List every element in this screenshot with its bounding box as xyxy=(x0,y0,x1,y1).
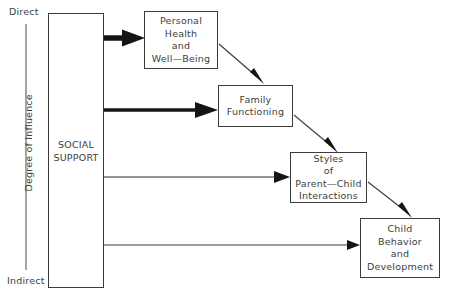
node-parent-child-styles-line-1: Styles xyxy=(313,153,343,166)
arrow-social-support-to-parent-child-styles xyxy=(104,171,290,183)
node-social-support-line-1: SOCIAL xyxy=(58,138,94,151)
arrow-social-support-to-child-behavior xyxy=(104,240,360,250)
node-child-behavior-line-2: Behavior xyxy=(378,236,422,249)
node-parent-child-styles-line-3: Parent—Child xyxy=(295,178,361,191)
node-family-functioning[interactable]: Family Functioning xyxy=(218,85,293,127)
node-child-behavior-line-1: Child xyxy=(388,223,413,236)
node-social-support-line-2: SUPPORT xyxy=(53,151,98,164)
node-parent-child-styles-line-2: of xyxy=(324,165,334,178)
node-personal-health-line-1: Personal xyxy=(160,15,202,28)
node-personal-health-and-well-being[interactable]: Personal Health and Well—Being xyxy=(144,11,218,69)
node-child-behavior-line-4: Development xyxy=(367,261,433,274)
axis-label-degree-of-influence: Degree of Influence xyxy=(23,102,34,192)
arrow-parent-child-styles-to-child-behavior xyxy=(368,182,412,218)
node-parent-child-styles-line-4: Interactions xyxy=(299,190,358,203)
node-family-functioning-line-1: Family xyxy=(240,94,272,107)
node-child-behavior-and-development[interactable]: Child Behavior and Development xyxy=(360,218,440,278)
arrow-social-support-to-family-functioning xyxy=(104,102,218,118)
arrow-social-support-to-personal-health xyxy=(104,30,145,47)
arrow-personal-health-to-family-functioning xyxy=(219,44,264,84)
diagram-canvas: Direct Degree of Influence Indirect SOCI… xyxy=(0,0,450,298)
arrow-family-functioning-to-parent-child-styles xyxy=(294,115,338,153)
axis-label-indirect: Indirect xyxy=(7,275,45,286)
node-family-functioning-line-2: Functioning xyxy=(227,106,284,119)
node-personal-health-line-2: Health xyxy=(165,28,197,41)
node-social-support[interactable]: SOCIAL SUPPORT xyxy=(48,13,104,288)
node-personal-health-line-3: and xyxy=(172,40,190,53)
axis-label-direct: Direct xyxy=(9,6,39,17)
node-child-behavior-line-3: and xyxy=(391,248,409,261)
node-personal-health-line-4: Well—Being xyxy=(152,53,211,66)
node-styles-of-parent-child-interactions[interactable]: Styles of Parent—Child Interactions xyxy=(290,152,367,203)
